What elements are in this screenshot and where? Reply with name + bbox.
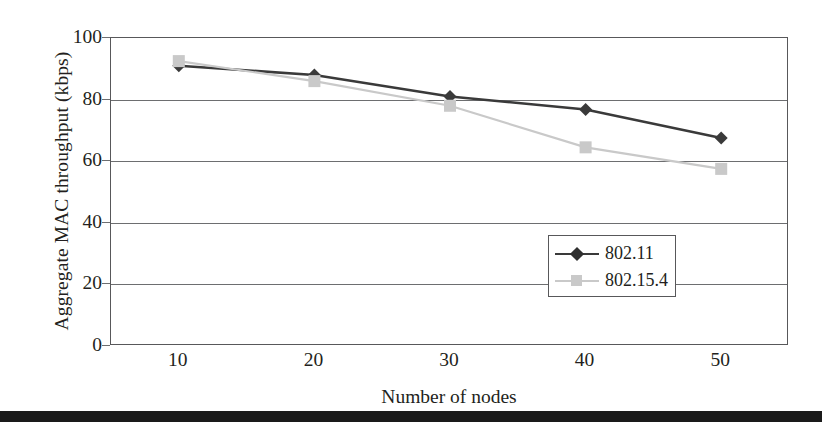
x-tick-label-30: 30 — [409, 350, 489, 370]
series-layer — [111, 38, 789, 346]
y-tick-mark-40 — [102, 222, 110, 223]
legend-entry-0: 802.11 — [549, 240, 675, 267]
legend-label-0: 802.11 — [599, 243, 654, 264]
x-tick-label-50: 50 — [680, 350, 760, 370]
legend-sample-0 — [555, 245, 599, 263]
y-tick-mark-20 — [102, 283, 110, 284]
plot-area — [110, 37, 788, 345]
y-tick-label-20: 20 — [42, 273, 102, 293]
diamond-marker-802.11-50 — [715, 132, 728, 145]
page-bottom-rule — [0, 411, 822, 422]
y-tick-mark-80 — [102, 99, 110, 100]
x-tick-label-10: 10 — [138, 350, 218, 370]
y-tick-label-100: 100 — [42, 27, 102, 47]
diamond-marker-802.11-40 — [579, 103, 592, 116]
legend-label-1: 802.15.4 — [599, 270, 668, 291]
legend-sample-1 — [555, 272, 599, 290]
y-tick-mark-60 — [102, 160, 110, 161]
y-tick-label-group: 100806040200 — [40, 0, 102, 427]
y-tick-label-0: 0 — [42, 335, 102, 355]
x-tick-label-20: 20 — [273, 350, 353, 370]
legend: 802.11 802.15.4 — [548, 235, 676, 297]
y-tick-mark-100 — [102, 37, 110, 38]
square-marker-802.15.4-30 — [444, 100, 456, 112]
square-marker-802.15.4-40 — [580, 141, 592, 153]
y-tick-mark-0 — [102, 345, 110, 346]
y-tick-label-60: 60 — [42, 150, 102, 170]
square-marker-802.15.4-10 — [173, 55, 185, 67]
square-marker-icon — [571, 275, 582, 286]
figure-container: Aggregate MAC throughput (kbps) 10080604… — [0, 0, 822, 427]
diamond-marker-icon — [570, 246, 584, 260]
square-marker-802.15.4-50 — [715, 163, 727, 175]
square-marker-802.15.4-20 — [308, 75, 320, 87]
legend-entry-1: 802.15.4 — [549, 267, 675, 294]
series-802.15.4 — [173, 55, 727, 175]
x-axis-title: Number of nodes — [110, 386, 788, 408]
y-tick-label-80: 80 — [42, 89, 102, 109]
x-tick-label-40: 40 — [545, 350, 625, 370]
y-tick-label-40: 40 — [42, 212, 102, 232]
series-line-802.15.4 — [179, 61, 721, 169]
